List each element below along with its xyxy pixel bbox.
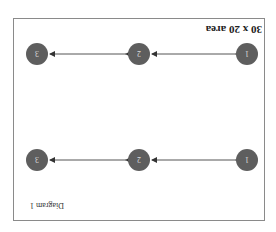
node-label: 3: [35, 50, 39, 59]
node-row1-1: 1: [236, 149, 258, 171]
diagram-canvas: Diagram 1 1 2 3 1 2 3 30 x 20 area: [0, 0, 276, 232]
node-row1-3: 3: [26, 149, 48, 171]
node-label: 1: [245, 50, 249, 59]
node-row2-3: 3: [26, 43, 48, 65]
node-label: 1: [245, 156, 249, 165]
node-row2-1: 1: [236, 43, 258, 65]
diagram-caption: Diagram 1: [30, 201, 64, 210]
node-row1-2: 2: [128, 149, 150, 171]
area-title: 30 x 20 area: [206, 24, 262, 36]
node-label: 2: [137, 156, 141, 165]
node-label: 2: [137, 50, 141, 59]
node-row2-2: 2: [128, 43, 150, 65]
node-label: 3: [35, 156, 39, 165]
